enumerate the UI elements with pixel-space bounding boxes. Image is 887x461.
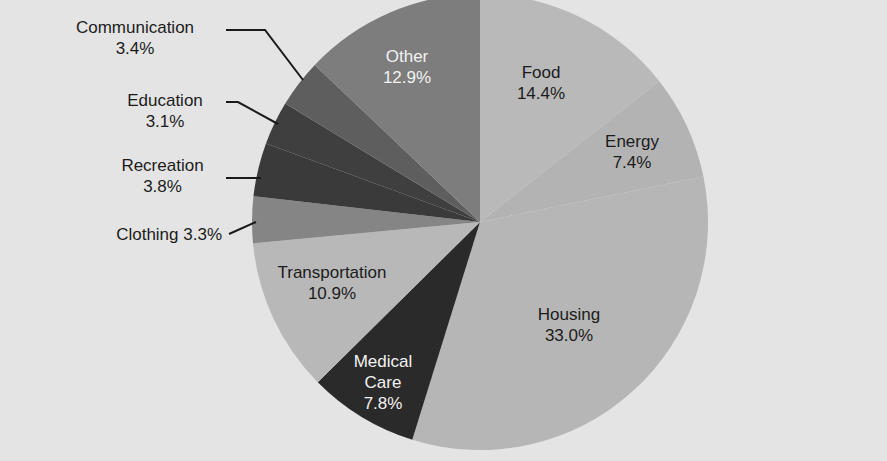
label-medical-value: 7.8% [343,393,423,414]
label-recreation: Recreation 3.8% [100,155,225,197]
pie-slices [252,0,708,450]
label-housing-value: 33.0% [519,325,619,346]
label-energy: Energy 7.4% [582,131,682,173]
label-other-name: Other [362,46,452,67]
leader-line-clothing [229,222,256,234]
label-food: Food 14.4% [497,62,585,104]
leader-line-education [226,102,278,124]
label-education-value: 3.1% [105,111,225,132]
label-education: Education 3.1% [105,90,225,132]
label-other: Other 12.9% [362,46,452,88]
label-clothing: Clothing 3.3% [60,224,222,245]
label-recreation-value: 3.8% [100,176,225,197]
label-other-value: 12.9% [362,67,452,88]
label-communication: Communication 3.4% [50,17,220,59]
label-medical-name-1: Medical [343,351,423,372]
label-transportation: Transportation 10.9% [262,262,402,304]
label-recreation-name: Recreation [100,155,225,176]
label-energy-value: 7.4% [582,152,682,173]
label-transportation-name: Transportation [262,262,402,283]
label-food-value: 14.4% [497,83,585,104]
label-medical-name-2: Care [343,372,423,393]
label-clothing-text: Clothing 3.3% [116,225,222,244]
label-housing-name: Housing [519,304,619,325]
label-communication-value: 3.4% [50,38,220,59]
label-transportation-value: 10.9% [262,283,402,304]
label-education-name: Education [105,90,225,111]
label-energy-name: Energy [582,131,682,152]
label-housing: Housing 33.0% [519,304,619,346]
label-food-name: Food [497,62,585,83]
leader-line-communication [226,30,303,80]
label-medical-care: Medical Care 7.8% [343,351,423,414]
label-communication-name: Communication [50,17,220,38]
